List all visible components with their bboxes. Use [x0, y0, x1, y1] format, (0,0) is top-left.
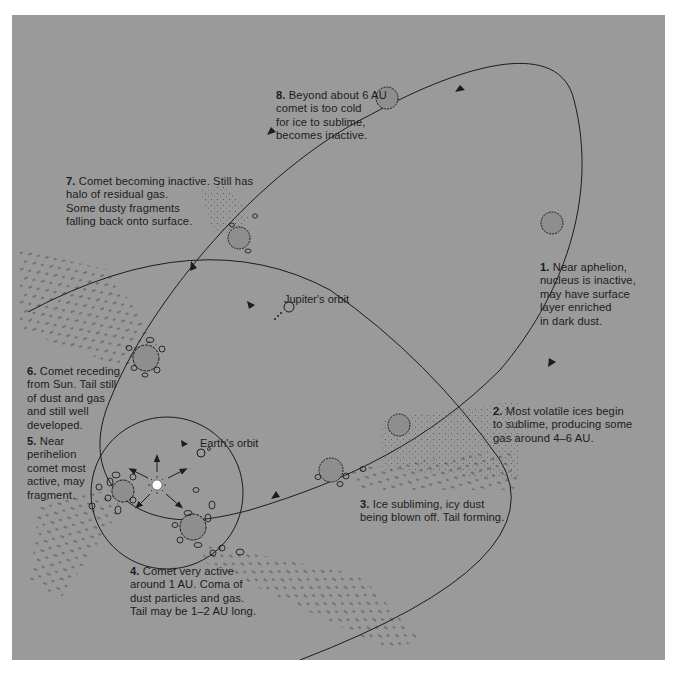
stage-1-label: 1. Near aphelion, nucleus is inactive, m… [540, 261, 636, 328]
fragments [89, 214, 366, 556]
jupiter-orbit-label: Jupiter's orbit [284, 293, 349, 305]
dust-tail-stage5 [30, 490, 120, 600]
comet-nucleus-stage2 [388, 414, 410, 436]
stage-text: Comet receding from Sun. Tail still of d… [27, 365, 120, 431]
stage-text: Ice subliming, icy dust being blown off.… [360, 498, 504, 523]
stage-number: 7. [66, 175, 76, 187]
stage-text: Comet becoming inactive. Still has halo … [66, 175, 253, 227]
stage-2-label: 2. Most volatile ices begin to sublime, … [493, 405, 632, 445]
stage-text: Beyond about 6 AU comet is too cold for … [276, 89, 387, 141]
stage-text: Comet very active around 1 AU. Coma of d… [130, 565, 256, 617]
stage-4-label: 4. Comet very active around 1 AU. Coma o… [130, 565, 256, 619]
comet-nucleus-stage7 [228, 227, 250, 249]
stage-text: Near aphelion, nucleus is inactive, may … [540, 261, 636, 327]
stage-number: 6. [27, 365, 37, 377]
stage-7-label: 7. Comet becoming inactive. Still has ha… [66, 175, 253, 229]
comet-nucleus-stage4 [180, 514, 206, 540]
stage-text: Most volatile ices begin to sublime, pro… [493, 405, 632, 444]
stage-number: 1. [540, 261, 550, 273]
earth-icon [197, 449, 205, 457]
stage-3-label: 3. Ice subliming, icy dust being blown o… [360, 498, 504, 525]
stage-number: 2. [493, 405, 503, 417]
stage-6-label: 6. Comet receding from Sun. Tail still o… [27, 365, 120, 432]
earth-orbit-label: Earth's orbit [200, 437, 258, 449]
comet-nucleus-stage3 [319, 458, 343, 482]
stage-5-label: 5. Near perihelion comet most active, ma… [27, 435, 86, 502]
stage-number: 3. [360, 498, 370, 510]
diagram-panel: Jupiter's orbit Earth's orbit 1. Near ap… [12, 15, 665, 660]
stage-8-label: 8. Beyond about 6 AU comet is too cold f… [276, 89, 387, 143]
comet-nucleus-stage1 [541, 212, 563, 234]
stage-number: 5. [27, 435, 37, 447]
stage-number: 4. [130, 565, 140, 577]
sun-icon [132, 458, 184, 506]
stage-number: 8. [276, 89, 286, 101]
